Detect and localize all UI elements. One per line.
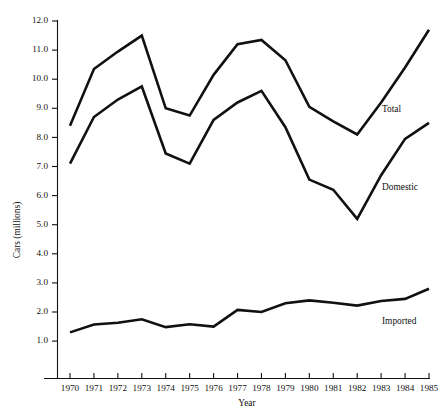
- x-axis-tick-label: 1984: [396, 383, 415, 393]
- y-axis: 1.02.03.04.05.06.07.08.09.010.011.012.0 …: [12, 15, 58, 378]
- x-axis-tick-label: 1979: [276, 383, 295, 393]
- series-line-total: [70, 30, 429, 135]
- x-axis-tick-labels: 1970197119721973197419751976197719781979…: [61, 383, 439, 393]
- chart-series-labels: TotalDomesticImported: [382, 104, 418, 326]
- x-axis-tick-label: 1985: [420, 383, 439, 393]
- x-axis-tick-label: 1981: [324, 383, 343, 393]
- x-axis-tick-label: 1974: [157, 383, 176, 393]
- x-axis-tick-label: 1983: [372, 383, 391, 393]
- y-axis-tick-label: 9.0: [37, 102, 49, 112]
- x-axis: 1970197119721973197419751976197719781979…: [44, 373, 439, 408]
- x-axis-tick-label: 1980: [300, 383, 319, 393]
- y-axis-tick-label: 12.0: [32, 15, 48, 25]
- y-axis-tick-label: 4.0: [37, 248, 49, 258]
- y-axis-tick-label: 5.0: [37, 219, 49, 229]
- x-axis-tick-label: 1970: [61, 383, 80, 393]
- x-axis-tick-label: 1978: [252, 383, 271, 393]
- y-axis-tick-label: 10.0: [32, 73, 48, 83]
- y-axis-tick-label: 8.0: [37, 132, 49, 142]
- x-axis-tick-label: 1982: [348, 383, 367, 393]
- x-axis-tick-label: 1977: [228, 383, 247, 393]
- x-axis-tick-label: 1972: [109, 383, 128, 393]
- chart-canvas: 1.02.03.04.05.06.07.08.09.010.011.012.0 …: [0, 0, 446, 420]
- series-line-domestic: [70, 86, 429, 218]
- y-axis-tick-label: 11.0: [32, 44, 48, 54]
- series-line-imported: [70, 289, 429, 333]
- y-axis-title: Cars (millions): [12, 202, 23, 259]
- y-axis-ticks: [52, 21, 58, 341]
- y-axis-tick-label: 3.0: [37, 277, 49, 287]
- y-axis-tick-labels: 1.02.03.04.05.06.07.08.09.010.011.012.0: [32, 15, 48, 345]
- y-axis-tick-label: 2.0: [37, 306, 49, 316]
- x-axis-tick-label: 1973: [133, 383, 152, 393]
- y-axis-tick-label: 1.0: [37, 335, 49, 345]
- x-axis-tick-label: 1976: [204, 383, 223, 393]
- line-chart: 1.02.03.04.05.06.07.08.09.010.011.012.0 …: [0, 0, 446, 420]
- x-axis-ticks: [70, 373, 429, 379]
- chart-series-group: [70, 30, 429, 333]
- series-label-total: Total: [382, 104, 402, 114]
- series-label-domestic: Domestic: [382, 182, 418, 192]
- x-axis-tick-label: 1975: [180, 383, 199, 393]
- y-axis-tick-label: 6.0: [37, 190, 49, 200]
- x-axis-title: Year: [238, 398, 256, 408]
- series-label-imported: Imported: [382, 316, 417, 326]
- x-axis-tick-label: 1971: [85, 383, 104, 393]
- y-axis-tick-label: 7.0: [37, 161, 49, 171]
